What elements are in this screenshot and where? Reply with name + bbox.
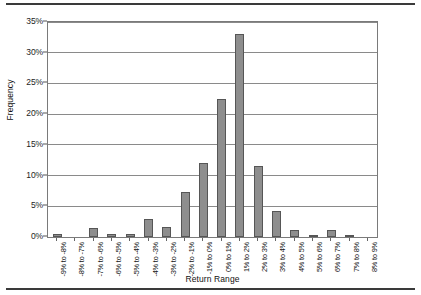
x-tick-label: 2% to 3% — [260, 242, 269, 272]
bar — [217, 99, 226, 237]
x-tick-mark — [294, 238, 295, 241]
bar — [254, 166, 263, 237]
bar — [327, 230, 336, 237]
x-tick-label: 7% to 8% — [352, 242, 361, 272]
x-tick-label: 3% to 4% — [278, 242, 287, 272]
x-tick-label: -2% to -1% — [187, 242, 196, 277]
bars-container — [48, 22, 377, 237]
plot-area — [47, 21, 378, 238]
x-tick-mark — [330, 238, 331, 241]
bar — [272, 211, 281, 237]
x-tick-mark — [349, 238, 350, 241]
x-tick-mark — [166, 238, 167, 241]
x-tick-mark — [257, 238, 258, 241]
x-tick-mark — [56, 238, 57, 241]
x-tick-mark — [93, 238, 94, 241]
x-axis-title: Return Range — [47, 274, 378, 284]
x-tick-mark — [184, 238, 185, 241]
y-tick-label: 35% — [26, 17, 43, 26]
x-tick-label: -8% to -7% — [77, 242, 86, 277]
y-tick-label: 15% — [26, 140, 43, 149]
bar — [199, 163, 208, 237]
x-tick-label: -4% to -3% — [151, 242, 160, 277]
x-tick-label: -7% to -6% — [96, 242, 105, 277]
y-tick-label: 30% — [26, 47, 43, 56]
x-tick-label: -3% to -2% — [169, 242, 178, 277]
y-tick-label: 20% — [26, 109, 43, 118]
x-tick-mark — [275, 238, 276, 241]
bar — [235, 34, 244, 237]
x-tick-mark — [111, 238, 112, 241]
bar — [162, 227, 171, 237]
x-tick-mark — [312, 238, 313, 241]
x-tick-label: 6% to 7% — [333, 242, 342, 272]
x-tick-mark — [74, 238, 75, 241]
bar — [126, 234, 135, 237]
y-tick-label: 5% — [31, 201, 43, 210]
figure-bottom-rule — [6, 288, 415, 290]
x-tick-label: 4% to 5% — [297, 242, 306, 272]
x-tick-mark — [239, 238, 240, 241]
x-tick-label: 0% to 1% — [224, 242, 233, 272]
y-tick-label: 25% — [26, 78, 43, 87]
y-axis: Frequency 0%5%10%15%20%25%30%35% — [0, 0, 47, 260]
x-tick-mark — [129, 238, 130, 241]
x-tick-label: -9% to -8% — [59, 242, 68, 277]
y-axis-title: Frequency — [5, 50, 15, 150]
x-tick-label: -5% to -4% — [132, 242, 141, 277]
x-tick-mark — [148, 238, 149, 241]
y-tick-label: 10% — [26, 170, 43, 179]
bar — [89, 228, 98, 237]
bar — [53, 234, 62, 237]
figure-top-rule — [6, 3, 415, 5]
x-tick-label: 5% to 6% — [315, 242, 324, 272]
x-tick-label: 1% to 2% — [242, 242, 251, 272]
x-tick-mark — [367, 238, 368, 241]
x-tick-mark — [202, 238, 203, 241]
bar — [290, 230, 299, 237]
bar — [309, 235, 318, 237]
bar — [181, 192, 190, 237]
bar — [144, 219, 153, 237]
histogram-figure: Frequency 0%5%10%15%20%25%30%35% -9% to … — [0, 0, 421, 295]
x-tick-label: -6% to -5% — [114, 242, 123, 277]
y-tick-label: 0% — [31, 232, 43, 241]
x-tick-label: 8% to 9% — [370, 242, 379, 272]
bar — [107, 234, 116, 237]
bar — [345, 235, 354, 237]
x-tick-label: -1% to 0% — [205, 242, 214, 274]
x-tick-mark — [221, 238, 222, 241]
